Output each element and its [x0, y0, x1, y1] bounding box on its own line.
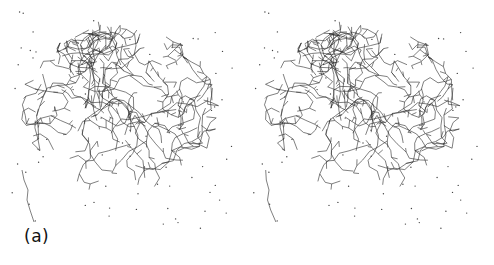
molecular-wireframe-right: [247, 0, 494, 240]
bond-network: [265, 22, 460, 222]
bond-network: [22, 22, 219, 222]
water-molecules: [12, 11, 233, 229]
panel-label: (a): [24, 226, 49, 246]
stereo-figure: (a): [0, 0, 494, 265]
molecular-wireframe-left: [0, 0, 247, 240]
stereo-view-left: [0, 0, 247, 240]
stereo-view-right: [247, 0, 494, 240]
